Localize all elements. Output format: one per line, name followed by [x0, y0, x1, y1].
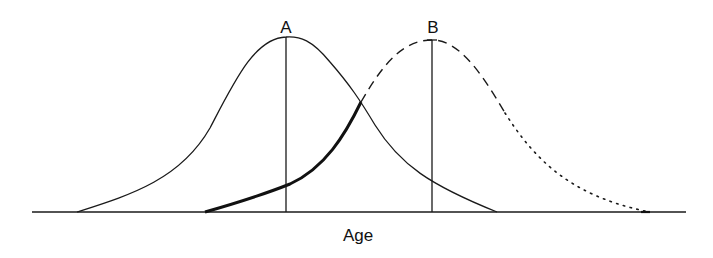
- curve-b-left-tail: [205, 102, 361, 212]
- curve-b-dashed-top: [361, 40, 505, 113]
- curve-b-dotted-tail: [505, 113, 645, 211]
- peak-label-a: A: [280, 18, 292, 37]
- age-distribution-diagram: A B Age: [0, 0, 713, 258]
- axis-label-age: Age: [343, 226, 373, 245]
- peak-label-b: B: [427, 18, 438, 37]
